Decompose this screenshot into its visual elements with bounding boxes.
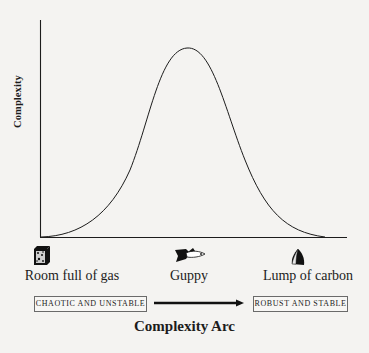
guppy-fish-icon [175, 248, 205, 262]
y-axis-label: Complexity [12, 75, 23, 128]
state-box-stable: ROBUST AND STABLE [253, 296, 348, 312]
state-box-chaotic: CHAOTIC AND UNSTABLE [34, 296, 147, 312]
gas-room-cube-icon [34, 246, 50, 265]
direction-arrow [154, 300, 244, 307]
item-label-guppy: Guppy [170, 268, 208, 284]
complexity-arc-figure: Complexity Room full of gas Guppy Lump o… [0, 0, 369, 353]
item-label-room-full-of-gas: Room full of gas [25, 268, 120, 284]
figure-title: Complexity Arc [0, 318, 369, 335]
carbon-lump-icon [292, 249, 304, 265]
item-label-lump-of-carbon: Lump of carbon [263, 268, 353, 284]
complexity-curve [41, 48, 325, 237]
